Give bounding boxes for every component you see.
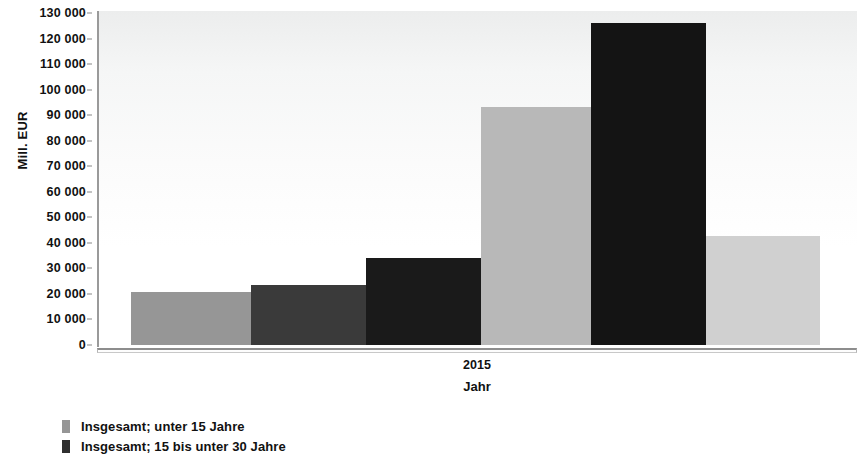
- y-axis-tick-label: 110 000: [40, 57, 86, 71]
- plot-area: [99, 11, 857, 345]
- y-axis-tick-labels: 130 000120 000110 000100 00090 00080 000…: [0, 0, 96, 360]
- legend-item: Insgesamt; unter 15 Jahre: [62, 416, 762, 436]
- y-axis-tick-mark: [87, 319, 92, 320]
- legend-item-label: Insgesamt; 15 bis unter 30 Jahre: [81, 439, 286, 454]
- y-axis-tick-label: 130 000: [39, 6, 86, 20]
- y-axis-tick-mark: [87, 64, 92, 65]
- y-axis-tick-mark: [87, 89, 92, 90]
- y-axis-tick-label: 60 000: [47, 185, 86, 199]
- y-axis-tick-label: 50 000: [47, 210, 86, 224]
- bar: [591, 23, 706, 345]
- y-axis-tick-mark: [87, 293, 92, 294]
- bar: [706, 236, 820, 345]
- y-axis-tick-mark: [87, 268, 92, 269]
- y-axis-tick-label: 30 000: [47, 261, 86, 275]
- y-axis-tick-mark: [87, 166, 92, 167]
- y-axis-tick-label: 10 000: [47, 312, 86, 326]
- y-axis-tick-label: 0: [79, 338, 86, 352]
- bar: [481, 107, 591, 345]
- y-axis-tick-mark: [87, 191, 92, 192]
- bar: [131, 292, 251, 345]
- y-axis-tick-mark: [87, 345, 92, 346]
- bar-chart: Mill. EUR 130 000120 000110 000100 00090…: [0, 0, 859, 467]
- y-axis-tick-label: 90 000: [47, 108, 86, 122]
- y-axis-tick-mark: [87, 115, 92, 116]
- x-axis-line: [97, 348, 857, 353]
- y-axis-tick-label: 20 000: [47, 287, 86, 301]
- y-axis-tick-mark: [87, 217, 92, 218]
- y-axis-tick-label: 80 000: [47, 134, 86, 148]
- legend-item-label: Insgesamt; unter 15 Jahre: [81, 419, 245, 434]
- y-axis-tick-label: 120 000: [39, 32, 86, 46]
- y-axis-tick-mark: [87, 38, 92, 39]
- bars-group: [99, 11, 857, 345]
- bar: [251, 285, 366, 345]
- legend-swatch-icon: [62, 420, 70, 433]
- y-axis-tick-mark: [87, 140, 92, 141]
- y-axis-tick-label: 40 000: [47, 236, 86, 250]
- y-axis-tick-label: 70 000: [47, 159, 86, 173]
- y-axis-tick-mark: [87, 13, 92, 14]
- x-axis-tick-label: 2015: [97, 358, 857, 372]
- legend-item: Insgesamt; 15 bis unter 30 Jahre: [62, 436, 762, 456]
- bar: [366, 258, 481, 345]
- y-axis-tick-mark: [87, 242, 92, 243]
- legend-swatch-icon: [62, 440, 70, 453]
- legend: Insgesamt; unter 15 JahreInsgesamt; 15 b…: [62, 416, 762, 456]
- y-axis-tick-label: 100 000: [39, 83, 86, 97]
- x-axis-title: Jahr: [97, 379, 857, 394]
